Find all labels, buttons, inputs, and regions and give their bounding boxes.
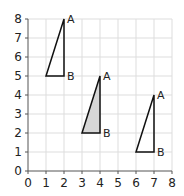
x-tick-label: 8 [168, 176, 176, 190]
x-tick-label: 2 [60, 176, 68, 190]
vertex-label-b: B [157, 146, 165, 159]
y-tick-label: 6 [14, 50, 22, 64]
y-tick-label: 1 [14, 145, 22, 159]
y-tick-label: 2 [14, 126, 22, 140]
vertex-label-a: A [67, 13, 75, 26]
x-tick-label: 3 [78, 176, 86, 190]
y-tick-label: 8 [14, 12, 22, 26]
y-tick-label: 5 [14, 69, 22, 83]
vertex-label-a: A [157, 89, 165, 102]
coordinate-grid: 012345678012345678 ABABAB [0, 0, 184, 196]
x-tick-label: 4 [96, 176, 104, 190]
x-tick-label: 7 [150, 176, 158, 190]
vertex-label-b: B [103, 127, 111, 140]
x-tick-label: 6 [132, 176, 140, 190]
triangle-left [46, 19, 64, 76]
vertex-label-b: B [67, 70, 75, 83]
x-tick-label: 1 [42, 176, 50, 190]
x-tick-label: 5 [114, 176, 122, 190]
y-tick-label: 4 [14, 88, 22, 102]
triangle-middle [82, 76, 100, 133]
y-tick-label: 0 [14, 164, 22, 178]
triangle-right [136, 95, 154, 152]
vertex-label-a: A [103, 70, 111, 83]
y-tick-label: 3 [14, 107, 22, 121]
y-tick-label: 7 [14, 31, 22, 45]
x-tick-label: 0 [24, 176, 32, 190]
